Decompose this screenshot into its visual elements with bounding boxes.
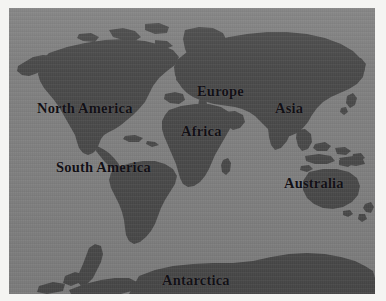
map-label-north-america: North America bbox=[37, 101, 133, 116]
map-label-australia: Australia bbox=[284, 176, 344, 191]
map-plate: North America South America Europe Afric… bbox=[9, 8, 375, 294]
world-map-figure: North America South America Europe Afric… bbox=[0, 0, 386, 301]
map-label-antarctica: Antarctica bbox=[162, 273, 230, 288]
map-label-asia: Asia bbox=[275, 101, 303, 116]
map-label-europe: Europe bbox=[197, 84, 244, 99]
continents-layer bbox=[9, 8, 375, 294]
map-label-south-america: South America bbox=[56, 160, 151, 175]
map-label-africa: Africa bbox=[181, 124, 222, 139]
